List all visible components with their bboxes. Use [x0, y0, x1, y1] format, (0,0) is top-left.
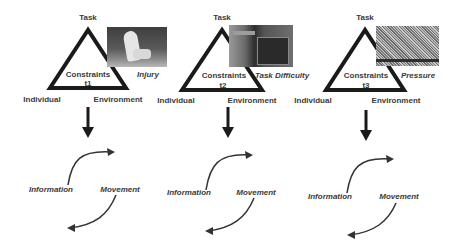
individual-label: Individual — [294, 97, 331, 105]
curved-arrow-movement-to-info — [208, 198, 254, 231]
time-label: t3 — [362, 82, 369, 90]
constraints-label: Constraints — [344, 72, 388, 80]
environment-label: Environment — [94, 96, 143, 104]
environment-label: Environment — [372, 97, 421, 105]
movement-label: Movement — [379, 193, 419, 201]
arrowhead-icon — [245, 151, 253, 159]
curved-arrow-movement-to-info — [70, 195, 116, 228]
scoreboard-photo — [229, 25, 293, 67]
panel-t1: Task Constraints t1 Individual Environme… — [0, 0, 153, 252]
time-label: t2 — [219, 82, 226, 90]
arrowhead-icon — [205, 227, 213, 235]
task-label: Task — [213, 14, 231, 22]
arrowhead-icon — [386, 155, 394, 163]
individual-label: Individual — [23, 96, 60, 104]
arrowhead-icon — [67, 224, 75, 232]
arrowhead-icon — [107, 148, 115, 156]
task-label: Task — [356, 14, 374, 22]
task-label: Task — [79, 14, 97, 22]
constraints-label: Constraints — [202, 72, 246, 80]
down-arrow-icon — [360, 130, 372, 141]
curved-arrow-movement-to-info — [350, 203, 396, 235]
curved-arrow-info-to-movement — [347, 159, 390, 193]
information-label: Information — [29, 186, 73, 194]
information-label: Information — [308, 193, 352, 201]
time-label: t1 — [84, 80, 91, 88]
movement-label: Movement — [100, 186, 140, 194]
curved-arrow-info-to-movement — [206, 155, 250, 190]
panel-t2: Task Constraints t2 Individual Environme… — [140, 0, 293, 252]
panel-t3: Task Constraints t3 Individual Environme… — [300, 0, 453, 252]
down-arrow-icon — [82, 127, 94, 138]
curved-arrow-info-to-movement — [68, 152, 112, 185]
individual-label: Individual — [157, 97, 194, 105]
down-arrow-icon — [222, 127, 234, 138]
constraint-caption: Pressure — [401, 72, 435, 80]
arrowhead-icon — [347, 231, 355, 239]
environment-label: Environment — [228, 97, 277, 105]
information-label: Information — [167, 189, 211, 197]
crowd-photo — [376, 26, 439, 66]
constraints-label: Constraints — [66, 71, 110, 79]
movement-label: Movement — [236, 189, 276, 197]
